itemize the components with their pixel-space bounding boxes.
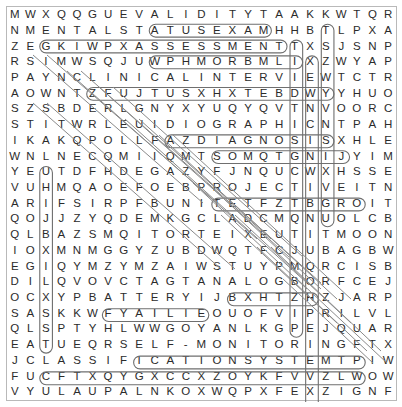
grid-cell[interactable]: P — [380, 54, 396, 70]
grid-cell[interactable]: K — [302, 7, 318, 23]
grid-cell[interactable]: R — [365, 290, 381, 306]
grid-cell[interactable]: K — [54, 133, 70, 149]
grid-cell[interactable]: X — [194, 86, 210, 102]
grid-cell[interactable]: U — [23, 180, 39, 196]
grid-cell[interactable]: B — [380, 211, 396, 227]
grid-cell[interactable]: X — [225, 23, 241, 39]
grid-cell[interactable]: B — [225, 290, 241, 306]
grid-cell[interactable]: F — [162, 337, 178, 353]
grid-cell[interactable]: Q — [85, 337, 101, 353]
grid-cell[interactable]: A — [38, 133, 54, 149]
grid-cell[interactable]: O — [380, 86, 396, 102]
grid-cell[interactable]: Y — [69, 259, 85, 275]
grid-cell[interactable]: T — [116, 290, 132, 306]
grid-cell[interactable]: Q — [100, 54, 116, 70]
grid-cell[interactable]: F — [54, 369, 70, 385]
grid-cell[interactable]: E — [131, 164, 147, 180]
grid-cell[interactable]: N — [256, 38, 272, 54]
grid-cell[interactable]: E — [380, 133, 396, 149]
grid-cell[interactable]: U — [100, 7, 116, 23]
grid-cell[interactable]: K — [23, 133, 39, 149]
grid-cell[interactable]: R — [209, 180, 225, 196]
grid-cell[interactable]: A — [365, 321, 381, 337]
grid-cell[interactable]: C — [302, 117, 318, 133]
grid-cell[interactable]: S — [85, 227, 101, 243]
grid-cell[interactable]: G — [162, 321, 178, 337]
grid-cell[interactable]: E — [69, 148, 85, 164]
grid-cell[interactable]: T — [287, 353, 303, 369]
grid-cell[interactable]: I — [194, 70, 210, 86]
grid-cell[interactable]: Q — [7, 321, 23, 337]
grid-cell[interactable]: U — [318, 211, 334, 227]
grid-cell[interactable]: X — [38, 290, 54, 306]
grid-cell[interactable]: Q — [100, 148, 116, 164]
grid-cell[interactable]: O — [225, 148, 241, 164]
grid-cell[interactable]: H — [256, 290, 272, 306]
grid-cell[interactable]: T — [54, 117, 70, 133]
grid-cell[interactable]: V — [302, 369, 318, 385]
grid-cell[interactable]: I — [287, 54, 303, 70]
grid-cell[interactable]: N — [54, 148, 70, 164]
grid-cell[interactable]: Q — [225, 101, 241, 117]
grid-cell[interactable]: S — [7, 101, 23, 117]
grid-cell[interactable]: T — [147, 227, 163, 243]
grid-cell[interactable]: J — [240, 180, 256, 196]
grid-cell[interactable]: W — [85, 38, 101, 54]
grid-cell[interactable]: W — [302, 86, 318, 102]
grid-cell[interactable]: S — [69, 196, 85, 212]
grid-cell[interactable]: I — [178, 259, 194, 275]
grid-cell[interactable]: Y — [116, 259, 132, 275]
grid-cell[interactable]: A — [85, 23, 101, 39]
grid-cell[interactable]: I — [318, 148, 334, 164]
grid-cell[interactable]: Q — [69, 180, 85, 196]
grid-cell[interactable]: A — [162, 353, 178, 369]
grid-cell[interactable]: P — [7, 70, 23, 86]
grid-cell[interactable]: O — [162, 227, 178, 243]
grid-cell[interactable]: H — [349, 86, 365, 102]
grid-cell[interactable]: K — [54, 38, 70, 54]
grid-cell[interactable]: O — [23, 211, 39, 227]
grid-cell[interactable]: D — [240, 211, 256, 227]
grid-cell[interactable]: Y — [85, 321, 101, 337]
grid-cell[interactable]: W — [302, 164, 318, 180]
grid-cell[interactable]: A — [69, 384, 85, 400]
grid-cell[interactable]: N — [256, 133, 272, 149]
grid-cell[interactable]: R — [318, 259, 334, 275]
grid-cell[interactable]: K — [256, 321, 272, 337]
grid-cell[interactable]: F — [116, 353, 132, 369]
grid-cell[interactable]: I — [365, 196, 381, 212]
grid-cell[interactable]: E — [240, 38, 256, 54]
grid-cell[interactable]: S — [194, 23, 210, 39]
grid-cell[interactable]: I — [131, 227, 147, 243]
grid-cell[interactable]: U — [38, 164, 54, 180]
grid-cell[interactable]: T — [271, 290, 287, 306]
grid-cell[interactable]: P — [116, 196, 132, 212]
grid-cell[interactable]: B — [178, 180, 194, 196]
grid-cell[interactable]: S — [318, 133, 334, 149]
grid-cell[interactable]: T — [54, 164, 70, 180]
grid-cell[interactable]: L — [240, 274, 256, 290]
grid-cell[interactable]: S — [287, 133, 303, 149]
grid-cell[interactable]: A — [365, 117, 381, 133]
grid-cell[interactable]: Z — [318, 369, 334, 385]
grid-cell[interactable]: O — [365, 369, 381, 385]
grid-cell[interactable]: U — [162, 86, 178, 102]
grid-cell[interactable]: D — [7, 274, 23, 290]
grid-cell[interactable]: J — [116, 54, 132, 70]
grid-cell[interactable]: N — [225, 337, 241, 353]
grid-cell[interactable]: K — [256, 369, 272, 385]
grid-cell[interactable]: X — [380, 337, 396, 353]
grid-cell[interactable]: Q — [287, 211, 303, 227]
grid-cell[interactable]: L — [147, 337, 163, 353]
grid-cell[interactable]: X — [365, 23, 381, 39]
grid-cell[interactable]: O — [209, 54, 225, 70]
grid-cell[interactable]: P — [271, 259, 287, 275]
grid-cell[interactable]: L — [162, 7, 178, 23]
grid-cell[interactable]: V — [7, 384, 23, 400]
grid-cell[interactable]: N — [69, 243, 85, 259]
grid-cell[interactable]: A — [131, 38, 147, 54]
grid-cell[interactable]: V — [365, 306, 381, 322]
grid-cell[interactable]: U — [85, 384, 101, 400]
grid-cell[interactable]: L — [178, 70, 194, 86]
grid-cell[interactable]: Q — [100, 211, 116, 227]
